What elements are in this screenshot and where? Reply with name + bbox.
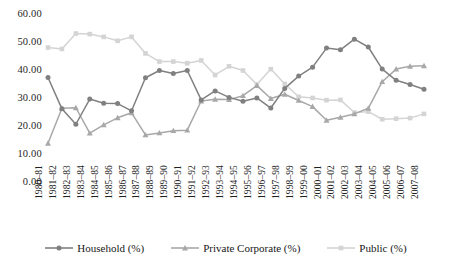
x-tick-label: 1983–84 xyxy=(76,165,86,199)
chart-legend: Household (%)Private Corporate (%)Public… xyxy=(0,238,451,258)
legend-item[interactable]: Private Corporate (%) xyxy=(170,242,300,254)
x-tick-label: 1987–88 xyxy=(131,165,141,199)
legend-marker-circle-icon xyxy=(44,242,74,254)
legend-label: Household (%) xyxy=(77,242,144,254)
legend-marker-triangle-icon xyxy=(170,242,200,254)
x-tick-label: 1992–93 xyxy=(201,165,211,199)
x-tick-label: 1997–98 xyxy=(271,165,281,199)
x-tick-label: 2004–05 xyxy=(368,165,378,199)
legend-label: Private Corporate (%) xyxy=(203,242,300,254)
x-tick-label: 2001–02 xyxy=(326,165,336,199)
x-tick-label: 1996–97 xyxy=(257,165,267,199)
x-tick-label: 1999–00 xyxy=(299,165,309,199)
legend-item[interactable]: Household (%) xyxy=(44,242,144,254)
x-tick-label: 2006–07 xyxy=(396,165,406,199)
x-tick-label: 2007–08 xyxy=(410,165,420,199)
x-tick-label: 1993–94 xyxy=(215,165,225,199)
x-tick-label: 1990–91 xyxy=(173,165,183,199)
legend-marker-square-icon xyxy=(326,242,356,254)
x-tick-label: 2002–03 xyxy=(340,165,350,199)
x-tick-label: 1994–95 xyxy=(229,165,239,199)
x-tick-label: 1989–90 xyxy=(159,165,169,199)
x-tick-label: 1981–82 xyxy=(48,165,58,199)
legend-label: Public (%) xyxy=(359,242,406,254)
x-tick-label: 1998–99 xyxy=(285,165,295,199)
x-tick-label: 1988–89 xyxy=(145,165,155,199)
line-chart: 0.0010.0020.0030.0040.0050.0060.00 1980–… xyxy=(0,0,451,266)
x-tick-label: 1991–92 xyxy=(187,165,197,199)
legend-item[interactable]: Public (%) xyxy=(326,242,406,254)
plot-area xyxy=(0,0,451,266)
x-tick-label: 2003–04 xyxy=(354,165,364,199)
x-tick-label: 1980–81 xyxy=(34,165,44,199)
x-tick-label: 2000–01 xyxy=(313,165,323,199)
x-tick-label: 2005–06 xyxy=(382,165,392,199)
x-tick-label: 1986–87 xyxy=(118,165,128,199)
x-tick-label: 1984–85 xyxy=(90,165,100,199)
x-tick-label: 1995–96 xyxy=(243,165,253,199)
x-tick-label: 1985–86 xyxy=(104,165,114,199)
x-tick-label: 1982–83 xyxy=(62,165,72,199)
